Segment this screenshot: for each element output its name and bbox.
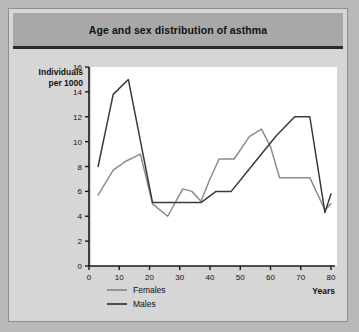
plot-background <box>91 67 337 266</box>
plot-area-wrapper: 024681012141601020304050607080YearsFemal… <box>9 9 349 323</box>
y-tick-label: 16 <box>73 63 82 72</box>
legend-label-males: Males <box>133 299 156 309</box>
x-tick-label: 40 <box>206 273 215 282</box>
x-tick-label: 20 <box>145 273 154 282</box>
x-tick-label: 80 <box>327 273 336 282</box>
x-tick-label: 60 <box>266 273 275 282</box>
figure-panel: Age and sex distribution of asthma Indiv… <box>8 8 348 322</box>
x-tick-label: 0 <box>87 273 92 282</box>
line-chart: 024681012141601020304050607080YearsFemal… <box>9 9 349 323</box>
x-tick-label: 10 <box>115 273 124 282</box>
y-tick-label: 4 <box>78 212 83 221</box>
y-tick-label: 8 <box>78 163 83 172</box>
x-tick-label: 50 <box>236 273 245 282</box>
y-tick-label: 6 <box>78 187 83 196</box>
y-tick-label: 2 <box>78 237 83 246</box>
y-tick-label: 10 <box>73 138 82 147</box>
y-tick-label: 14 <box>73 88 82 97</box>
legend-label-females: Females <box>133 285 166 295</box>
y-tick-label: 12 <box>73 113 82 122</box>
x-tick-label: 70 <box>296 273 305 282</box>
y-tick-label: 0 <box>78 262 83 271</box>
x-axis-title: Years <box>312 286 335 296</box>
x-tick-label: 30 <box>175 273 184 282</box>
